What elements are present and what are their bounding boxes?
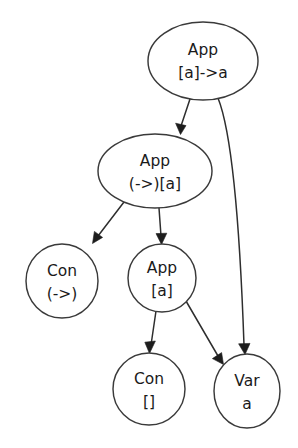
edge-app-list-to-var-a — [186, 301, 224, 365]
edge-line — [98, 202, 124, 236]
edge-app-root-to-var-a — [218, 98, 250, 355]
node-label-line2: [a]->a — [178, 64, 228, 82]
edge-line — [218, 98, 244, 345]
node-con-arrow[interactable]: Con (->) — [26, 244, 98, 318]
graph-canvas: App [a]->a App (->)[a] Con (->) App [a] — [0, 0, 298, 448]
node-label-line2: (->)[a] — [129, 175, 181, 193]
node-shape[interactable] — [128, 244, 196, 312]
arrowhead-icon — [212, 353, 223, 365]
edge-line — [181, 99, 190, 126]
node-shape[interactable] — [148, 22, 258, 100]
node-shape[interactable] — [214, 354, 280, 428]
arrowhead-icon — [239, 343, 250, 354]
node-shape[interactable] — [113, 353, 185, 425]
node-shape[interactable] — [98, 134, 212, 208]
arrowhead-icon — [93, 231, 103, 243]
edge-line — [186, 301, 218, 356]
node-label-line1: Var — [234, 372, 260, 390]
arrowhead-icon — [156, 233, 167, 244]
node-shape[interactable] — [26, 244, 98, 318]
edge-line — [159, 208, 161, 236]
edge-app-root-to-app-arrow-list — [176, 99, 190, 135]
node-label-line2: (->) — [47, 285, 78, 303]
node-app-root[interactable]: App [a]->a — [148, 22, 258, 100]
edge-line — [151, 311, 156, 345]
node-label-line1: App — [188, 41, 218, 59]
edge-app-arrow-list-to-app-list — [156, 208, 167, 245]
node-label-line2: [a] — [151, 282, 173, 300]
node-label-line1: App — [147, 259, 177, 277]
node-label-line1: App — [140, 152, 170, 170]
node-label-line2: a — [242, 395, 252, 413]
node-label-line1: Con — [134, 370, 164, 388]
edge-app-list-to-con-nil — [145, 311, 156, 354]
node-label-line2: [] — [143, 393, 155, 411]
node-app-arrow-list[interactable]: App (->)[a] — [98, 134, 212, 208]
arrowhead-icon — [145, 341, 156, 354]
node-layer: App [a]->a App (->)[a] Con (->) App [a] — [26, 22, 280, 428]
node-app-list[interactable]: App [a] — [128, 244, 196, 312]
node-var-a[interactable]: Var a — [214, 354, 280, 428]
node-con-nil[interactable]: Con [] — [113, 353, 185, 425]
expression-tree-diagram: App [a]->a App (->)[a] Con (->) App [a] — [0, 0, 298, 448]
node-label-line1: Con — [47, 262, 77, 280]
edge-app-arrow-list-to-con-arrow — [93, 202, 125, 244]
arrowhead-icon — [176, 123, 186, 134]
